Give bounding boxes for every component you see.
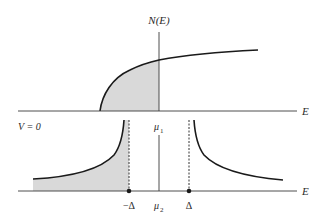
occupied-states-shade-top — [100, 60, 159, 111]
svg-text:1: 1 — [160, 127, 164, 135]
normal-metal-panel: N(E) E — [18, 14, 309, 117]
gap-edge-dot-plus — [187, 189, 192, 194]
top-energy-axis-label: E — [301, 105, 309, 117]
mu2-label: μ 2 — [153, 200, 164, 214]
mu1-label: μ 1 — [153, 121, 164, 135]
superconductor-panel: E −Δ μ 2 Δ — [18, 120, 309, 214]
density-of-states-diagram: N(E) E V = 0 μ 1 E −Δ — [0, 0, 325, 219]
svg-text:μ: μ — [153, 200, 159, 211]
gap-label: Δ — [186, 200, 193, 211]
bcs-dos-curve-right — [194, 120, 283, 180]
bias-label: V = 0 — [18, 121, 41, 132]
gap-edge-dot-minus — [127, 189, 132, 194]
svg-text:μ: μ — [153, 121, 159, 132]
y-axis-label: N(E) — [147, 14, 170, 27]
minus-gap-label: −Δ — [123, 200, 136, 211]
bottom-energy-axis-label: E — [301, 185, 309, 197]
svg-text:2: 2 — [160, 206, 164, 214]
